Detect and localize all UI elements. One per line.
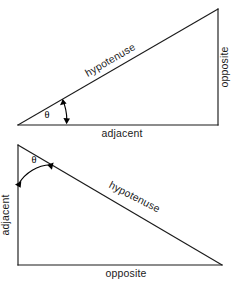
- triangle-top: θ hypotenuse opposite adjacent: [18, 9, 230, 139]
- triangle-bottom-adjacent-label: adjacent: [0, 195, 11, 236]
- triangle-bottom-hypotenuse-edge: [18, 145, 222, 265]
- triangle-bottom-angle-arc: [15, 163, 54, 188]
- triangle-top-adjacent-label: adjacent: [102, 127, 143, 139]
- trigonometry-figure: θ hypotenuse opposite adjacent: [0, 0, 235, 281]
- triangle-bottom-hypotenuse-label: hypotenuse: [107, 178, 162, 214]
- triangle-top-hypotenuse-edge: [18, 9, 218, 125]
- triangle-bottom-opposite-label: opposite: [106, 267, 147, 279]
- figure-canvas: θ hypotenuse opposite adjacent: [0, 0, 235, 281]
- triangle-top-theta-label: θ: [44, 109, 49, 120]
- triangle-bottom-theta-label: θ: [31, 154, 36, 165]
- triangle-bottom: θ adjacent hypotenuse opposite: [0, 145, 222, 279]
- triangle-top-arc-arrowhead-lower: [63, 118, 70, 124]
- triangle-top-hypotenuse-label: hypotenuse: [83, 40, 137, 78]
- triangle-top-opposite-label: opposite: [218, 47, 230, 88]
- triangle-top-angle-arc: [60, 99, 70, 124]
- triangle-bottom-arc-path: [19, 165, 51, 184]
